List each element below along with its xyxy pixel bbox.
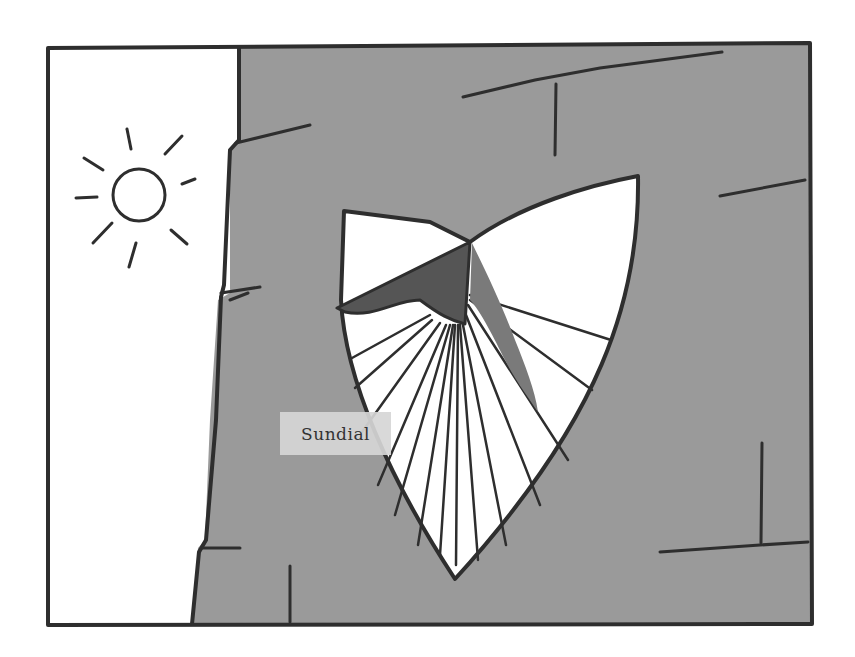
sundial-illustration <box>0 0 855 657</box>
sundial-label: Sundial <box>280 412 391 455</box>
sundial-label-text: Sundial <box>301 424 370 444</box>
